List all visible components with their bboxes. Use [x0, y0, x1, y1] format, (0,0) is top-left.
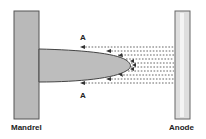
label-a-bottom: A [80, 91, 86, 100]
anode-highlight [180, 13, 184, 117]
mandrel-block [14, 11, 39, 119]
label-anode: Anode [169, 123, 194, 132]
label-mandrel: Mandrel [11, 123, 42, 132]
deposit-shape [39, 49, 131, 82]
electroforming-diagram [0, 0, 206, 139]
label-a-top: A [80, 33, 86, 42]
